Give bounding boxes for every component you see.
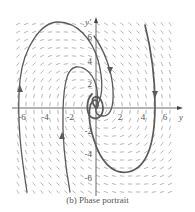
field-segment	[33, 142, 35, 146]
field-segment	[112, 39, 115, 42]
field-segment	[48, 63, 52, 65]
field-segment	[72, 40, 76, 41]
field-segment	[104, 86, 107, 89]
field-segment	[33, 126, 34, 130]
field-segment	[96, 119, 100, 120]
field-segment	[57, 118, 58, 122]
field-segment	[49, 86, 51, 90]
field-segment	[25, 62, 28, 65]
field-segment	[49, 166, 52, 169]
field-segment	[40, 32, 44, 33]
field-segment	[80, 88, 84, 89]
field-segment	[26, 94, 27, 98]
field-segment	[80, 47, 84, 48]
field-segment	[169, 78, 170, 82]
field-segment	[168, 167, 172, 170]
field-segment	[24, 23, 28, 24]
field-segment	[137, 126, 139, 130]
field-segment	[145, 70, 147, 74]
phase-portrait-figure: -6 -4 -2 2 4 6 y 6 4 2 -2 -4 -6 y'	[0, 0, 195, 212]
field-segment	[170, 86, 171, 90]
field-segment	[161, 62, 163, 66]
field-segment	[41, 86, 43, 90]
field-segment	[72, 48, 76, 49]
field-segment	[114, 102, 115, 106]
field-segment	[104, 119, 108, 120]
field-segment	[48, 71, 51, 74]
field-segment	[96, 23, 100, 25]
field-segment	[137, 118, 138, 122]
field-segment	[136, 176, 140, 177]
field-segment	[137, 46, 140, 49]
field-segment	[56, 191, 59, 194]
field-segment	[129, 54, 132, 57]
field-segment	[34, 94, 35, 98]
field-segment	[129, 126, 132, 129]
field-segment	[112, 55, 115, 58]
field-segment	[72, 150, 75, 153]
field-segment	[152, 183, 156, 184]
field-segment	[137, 54, 140, 57]
field-segment	[137, 62, 139, 66]
field-segment	[152, 175, 156, 176]
field-segment	[104, 136, 108, 137]
field-segment	[80, 159, 83, 162]
field-segment	[80, 151, 83, 154]
field-segment	[80, 167, 84, 170]
field-segment	[33, 150, 35, 154]
field-segment	[144, 143, 147, 146]
field-segment	[25, 86, 26, 90]
field-segment	[169, 22, 172, 26]
field-segment	[56, 63, 60, 65]
field-segment	[112, 160, 116, 161]
field-segment	[65, 126, 67, 130]
field-segment	[129, 94, 130, 98]
field-segment	[161, 142, 164, 146]
field-segment	[80, 143, 83, 146]
field-segment	[33, 134, 35, 138]
field-segment	[80, 191, 84, 193]
field-segment	[145, 62, 147, 66]
field-segment	[137, 38, 140, 41]
field-segment	[17, 62, 20, 65]
field-segment	[104, 167, 108, 168]
field-segment	[73, 134, 76, 137]
field-segment	[33, 86, 35, 90]
field-segment	[169, 134, 171, 138]
field-segment	[161, 38, 163, 42]
field-segment	[33, 70, 36, 73]
field-segment	[66, 102, 67, 106]
field-segment	[49, 158, 52, 162]
field-segment	[57, 126, 59, 130]
field-segment	[18, 126, 19, 130]
field-segment	[96, 175, 100, 177]
field-segment	[138, 94, 139, 98]
field-segment	[120, 184, 124, 185]
field-segment	[160, 159, 163, 162]
field-segment	[88, 159, 92, 161]
field-segment	[169, 30, 171, 34]
y-tick-label: -4	[85, 149, 93, 159]
field-segment	[56, 79, 59, 82]
field-segment	[32, 47, 36, 49]
field-segment	[41, 166, 44, 170]
field-segment	[153, 22, 156, 25]
field-segment	[50, 118, 51, 122]
field-segment	[170, 94, 171, 98]
field-segment	[96, 71, 100, 73]
field-segment	[121, 62, 124, 65]
field-segment	[144, 176, 148, 177]
field-segment	[26, 118, 27, 122]
trajectory-inner-left	[63, 67, 98, 192]
field-segment	[25, 70, 28, 74]
field-segment	[161, 126, 162, 130]
field-segment	[105, 110, 107, 114]
field-segment	[122, 102, 123, 106]
field-segment	[32, 24, 36, 25]
field-segment	[168, 159, 171, 162]
field-segment	[16, 39, 20, 41]
field-segment	[112, 191, 116, 192]
field-segment	[49, 126, 50, 130]
field-segment	[120, 176, 124, 177]
field-segment	[145, 38, 148, 41]
